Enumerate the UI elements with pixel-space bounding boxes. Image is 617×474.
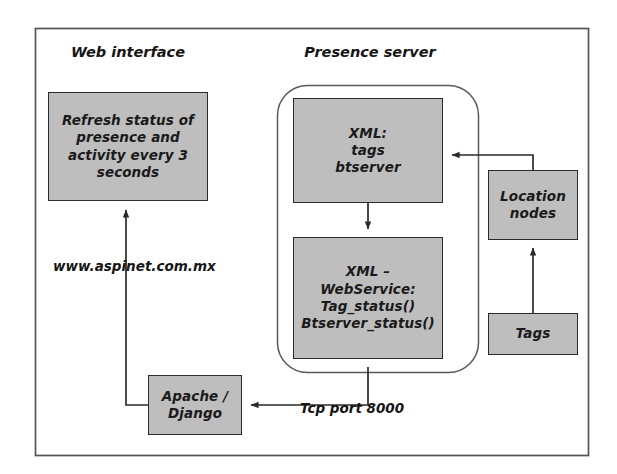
- edge-label-website-url: www.aspinet.com.mx: [53, 258, 216, 274]
- connector-apache-to-refresh: [126, 210, 148, 405]
- node-refresh-status: Refresh status of presence and activity …: [48, 92, 208, 201]
- node-tags: Tags: [488, 313, 578, 355]
- connector-locationnodes-to-xmltags: [452, 155, 533, 170]
- section-title-web-interface: Web interface: [53, 44, 203, 60]
- node-xml-webservice: XML – WebService: Tag_status() Btserver_…: [293, 237, 443, 359]
- node-xml-tags-btserver: XML: tags btserver: [293, 98, 443, 203]
- diagram-canvas: Web interface Presence server Refresh st…: [0, 0, 617, 474]
- node-apache-django: Apache / Django: [148, 375, 242, 435]
- section-title-presence-server: Presence server: [295, 44, 445, 60]
- node-location-nodes: Location nodes: [488, 170, 578, 240]
- edge-label-tcp-port: Tcp port 8000: [300, 400, 404, 416]
